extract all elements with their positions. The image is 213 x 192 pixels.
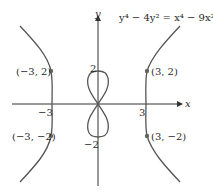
point-3-neg2 — [145, 134, 149, 138]
x-tick-3: 3 — [139, 107, 145, 118]
y-axis-label: y — [94, 8, 101, 19]
curve-diagram: y⁴ − 4y² = x⁴ − 9x² x y −3 3 2 −2 (−3, 2… — [0, 0, 213, 192]
equation-label: y⁴ − 4y² = x⁴ − 9x² — [118, 12, 213, 23]
y-tick-neg2: −2 — [84, 139, 99, 150]
x-axis-label: x — [185, 98, 191, 109]
point-label-3-2: (3, 2) — [151, 66, 178, 77]
x-tick-neg3: −3 — [38, 107, 53, 118]
point-label-neg3-2: (−3, 2) — [16, 66, 51, 77]
y-tick-2: 2 — [90, 63, 96, 74]
point-label-neg3-neg2: (−3, −2) — [12, 131, 56, 142]
point-label-3-neg2: (3, −2) — [151, 131, 186, 142]
point-3-2 — [145, 69, 149, 73]
